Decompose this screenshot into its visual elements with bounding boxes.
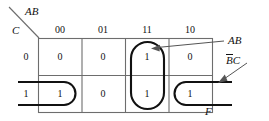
karnaugh-map-diagram: AB C 00 01 11 10 0 1 0 0 1 0 1 0 1 1 AB … bbox=[0, 0, 269, 121]
cell-r1-c11: 1 bbox=[125, 89, 169, 99]
cell-r1-c10: 1 bbox=[168, 89, 212, 99]
cell-r1-c00: 1 bbox=[38, 89, 82, 99]
group-label-ab: AB bbox=[228, 35, 241, 46]
cell-r0-c01: 0 bbox=[81, 52, 125, 62]
row-header-1: 1 bbox=[17, 89, 35, 99]
column-header-10: 10 bbox=[168, 25, 212, 35]
group-label-bc-b-overbar: B bbox=[226, 55, 233, 66]
corner-row-variable-label: C bbox=[12, 25, 19, 36]
column-header-01: 01 bbox=[81, 25, 125, 35]
row-header-0: 0 bbox=[17, 52, 35, 62]
output-function-label: F bbox=[205, 106, 212, 117]
cell-r0-c00: 0 bbox=[38, 52, 82, 62]
cell-r0-c10: 0 bbox=[168, 52, 212, 62]
group-label-bc-c: C bbox=[233, 54, 240, 66]
arrow-head-ab bbox=[151, 45, 160, 52]
arrow-line-ab bbox=[157, 41, 224, 48]
column-header-00: 00 bbox=[38, 25, 82, 35]
column-header-11: 11 bbox=[125, 25, 169, 35]
group-label-bc: BC bbox=[226, 55, 240, 66]
cell-r1-c01: 0 bbox=[81, 89, 125, 99]
corner-column-variable-label: AB bbox=[25, 6, 38, 17]
cell-r0-c11: 1 bbox=[125, 52, 169, 62]
